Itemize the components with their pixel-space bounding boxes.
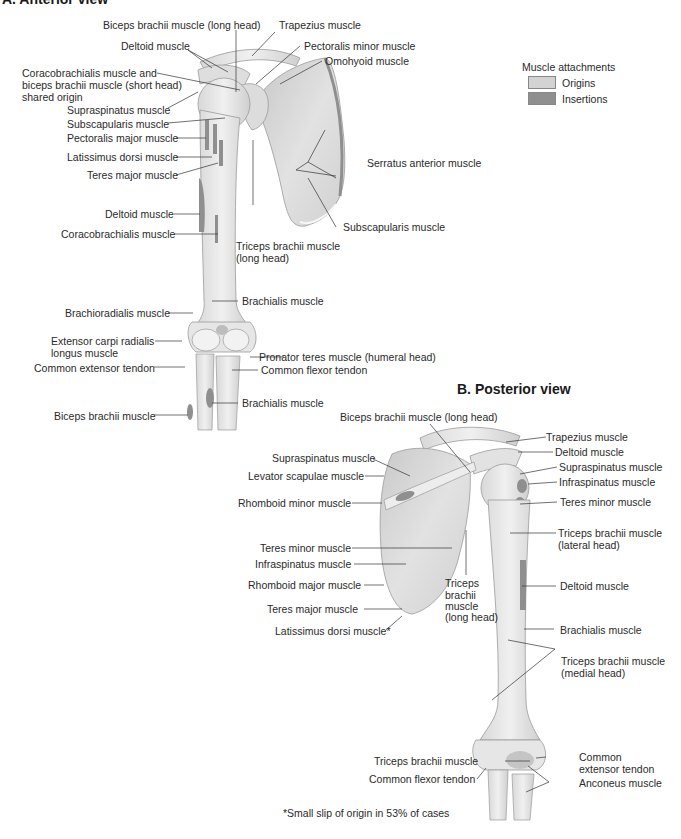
label-biceps-brachii-anterior: Biceps brachii muscle [54,410,156,422]
label-deltoid-posterior-shaft: Deltoid muscle [560,580,629,592]
label-deltoid-anterior-shaft: Deltoid muscle [105,208,174,220]
label-omohyoid: Omohyoid muscle [325,55,409,67]
label-ecrl-2: longus muscle [51,347,118,359]
label-common-flexor-tendon-anterior: Common flexor tendon [261,364,367,376]
label-common-extensor-tendon-anterior: Common extensor tendon [34,362,155,374]
label-teres-minor-posterior-humerus: Teres minor muscle [560,496,651,508]
label-biceps-long-head-anterior: Biceps brachii muscle (long head) [103,19,261,31]
label-coracobrachialis-shared-2: biceps brachii muscle (short head) [22,79,182,91]
label-triceps-lateral-head-2: (lateral head) [558,539,620,551]
label-supraspinatus-anterior: Supraspinatus muscle [67,104,170,116]
label-teres-minor-posterior-scapula: Teres minor muscle [260,542,351,554]
label-pectoralis-minor: Pectoralis minor muscle [304,40,415,52]
label-subscapularis-anterior-scapula: Subscapularis muscle [343,221,445,233]
anterior-view-title: A. Anterior view [2,0,108,7]
label-latissimus-dorsi-anterior: Latissimus dorsi muscle [67,151,178,163]
label-coracobrachialis-shared-3: shared origin [22,91,83,103]
label-latissimus-dorsi-posterior: Latissimus dorsi muscle* [275,625,391,637]
posterior-view-title: B. Posterior view [457,381,571,397]
label-rhomboid-major: Rhomboid major muscle [248,579,361,591]
label-brachioradialis: Brachioradialis muscle [65,307,170,319]
label-brachialis-anterior-humerus: Brachialis muscle [242,295,324,307]
label-trapezius-anterior: Trapezius muscle [279,19,361,31]
origins-swatch [528,76,556,89]
label-deltoid-posterior-top: Deltoid muscle [555,446,624,458]
label-brachialis-posterior: Brachialis muscle [560,624,642,636]
label-serratus-anterior: Serratus anterior muscle [367,157,481,169]
label-pronator-teres: Pronator teres muscle (humeral head) [259,351,436,363]
legend-item-insertions: Insertions [522,92,615,105]
label-levator-scapulae: Levator scapulae muscle [248,470,364,482]
label-triceps-long-head-posterior-4: (long head) [445,611,498,623]
label-common-flexor-tendon-posterior: Common flexor tendon [369,773,475,785]
label-coracobrachialis: Coracobrachialis muscle [61,228,175,240]
label-subscapularis-anterior-humerus: Subscapularis muscle [67,118,169,130]
footnote: *Small slip of origin in 53% of cases [283,807,449,819]
label-triceps-medial-head-1: Triceps brachii muscle [561,655,665,667]
label-triceps-long-head-anterior-1: Triceps brachii muscle [236,240,340,252]
label-teres-major-anterior: Teres major muscle [87,169,178,181]
label-anconeus: Anconeus muscle [579,777,662,789]
label-infraspinatus-posterior-humerus: Infraspinatus muscle [559,476,655,488]
label-brachialis-anterior-ulna: Brachialis muscle [242,397,324,409]
label-triceps-medial-head-2: (medial head) [561,667,625,679]
label-common-extensor-tendon-posterior-2: extensor tendon [579,763,654,775]
legend-label-origins: Origins [562,77,595,89]
label-trapezius-posterior: Trapezius muscle [546,431,628,443]
label-rhomboid-minor: Rhomboid minor muscle [238,497,351,509]
label-teres-major-posterior: Teres major muscle [267,603,358,615]
label-deltoid-anterior-top: Deltoid muscle [121,40,190,52]
legend-title: Muscle attachments [522,61,615,73]
label-pectoralis-major: Pectoralis major muscle [67,132,178,144]
legend-item-origins: Origins [522,76,615,89]
label-coracobrachialis-shared-1: Coracobrachialis muscle and [22,67,157,79]
label-ecrl-1: Extensor carpi radialis [51,335,154,347]
label-common-extensor-tendon-posterior-1: Common [579,751,622,763]
label-infraspinatus-posterior-scapula: Infraspinatus muscle [255,558,351,570]
label-triceps-brachii-elbow: Triceps brachii muscle [374,755,478,767]
label-supraspinatus-posterior-humerus: Supraspinatus muscle [559,461,662,473]
label-biceps-long-head-posterior: Biceps brachii muscle (long head) [340,411,498,423]
label-supraspinatus-posterior-scapula: Supraspinatus muscle [272,452,375,464]
insertions-swatch [528,92,556,105]
legend: Muscle attachments Origins Insertions [522,61,615,105]
label-triceps-lateral-head-1: Triceps brachii muscle [558,527,662,539]
legend-label-insertions: Insertions [562,93,608,105]
label-triceps-long-head-posterior-1: Triceps [445,577,479,589]
label-triceps-long-head-anterior-2: (long head) [236,252,289,264]
